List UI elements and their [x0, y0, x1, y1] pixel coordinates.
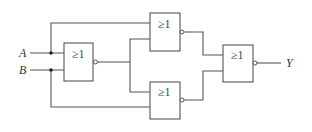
gate-4-symbol: ≥1: [231, 48, 244, 62]
input-label-b: B: [19, 63, 27, 77]
gate-4-inversion-bubble: [253, 61, 257, 65]
gate-1-inversion-bubble: [94, 60, 98, 64]
wire-gate2-to-gate4: [184, 32, 223, 55]
gate-2-inversion-bubble: [180, 30, 184, 34]
junction-dot-a: [49, 51, 53, 55]
wire-gate1-split: [130, 39, 150, 92]
junction-dot-b: [49, 68, 53, 72]
gate-2-symbol: ≥1: [158, 17, 171, 31]
output-label-y: Y: [286, 56, 294, 70]
gate-3-inversion-bubble: [180, 98, 184, 102]
gate-3-symbol: ≥1: [158, 85, 171, 99]
input-label-a: A: [18, 46, 27, 60]
gate-1-symbol: ≥1: [72, 47, 85, 61]
wire-gate3-to-gate4: [184, 71, 223, 100]
logic-circuit-diagram: ≥1 ≥1 ≥1 ≥1 A B Y: [0, 0, 312, 132]
